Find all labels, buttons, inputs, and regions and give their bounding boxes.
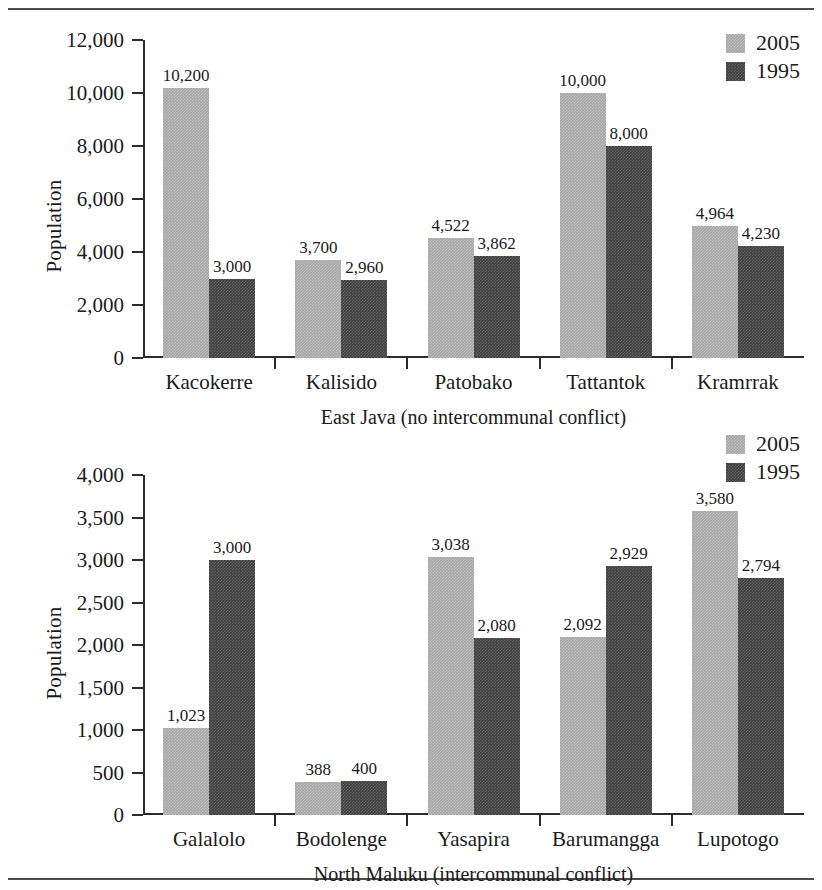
bar-2005[interactable]: 4,964 [692, 226, 738, 358]
y-tick-label: 3,000 [77, 550, 124, 571]
y-tick: 0 [132, 357, 143, 359]
bar-group: 2,0922,929 [540, 475, 672, 815]
y-tick-label: 2,000 [77, 295, 124, 316]
bar-value-label: 2,092 [564, 616, 602, 633]
y-tick-label: 1,000 [77, 720, 124, 741]
bar-1995[interactable]: 3,862 [474, 256, 520, 358]
bar-fill [163, 728, 209, 815]
bar-1995[interactable]: 400 [341, 781, 387, 815]
bar-fill [738, 578, 784, 815]
chart-panel-east-java: Population 2005 1995 02,0004,0006,0008,0… [0, 18, 822, 433]
bar-value-label: 2,960 [345, 259, 383, 276]
x-category-label: Patobako [407, 370, 539, 395]
bar-1995[interactable]: 3,000 [209, 279, 255, 359]
bar-fill [209, 560, 255, 815]
y-axis-title-top: Population [42, 179, 67, 272]
bar-1995[interactable]: 4,230 [738, 246, 784, 358]
y-axis-title-bottom: Population [42, 606, 67, 699]
bar-fill [560, 637, 606, 815]
x-tick [274, 815, 276, 826]
bar-fill [163, 88, 209, 358]
x-tick [406, 815, 408, 826]
bar-2005[interactable]: 3,580 [692, 511, 738, 815]
bar-value-label: 3,000 [213, 539, 251, 556]
plot-area-bottom: 05001,0001,5002,0002,5003,0003,5004,000 … [143, 475, 804, 815]
figure-page: Population 2005 1995 02,0004,0006,0008,0… [0, 0, 822, 890]
x-tick [671, 815, 673, 826]
y-tick: 1,000 [132, 729, 143, 731]
x-category-label: Lupotogo [672, 827, 804, 852]
bar-fill [606, 566, 652, 815]
bar-1995[interactable]: 8,000 [606, 146, 652, 358]
x-axis-title-bottom: North Maluku (intercommunal conflict) [143, 863, 804, 886]
y-tick-label: 4,000 [77, 465, 124, 486]
bar-1995[interactable]: 2,960 [341, 280, 387, 358]
bar-2005[interactable]: 388 [295, 782, 341, 815]
y-tick: 6,000 [132, 198, 143, 200]
y-tick-label: 3,500 [77, 507, 124, 528]
x-category-label: Bodolenge [275, 827, 407, 852]
y-tick: 10,000 [132, 92, 143, 94]
bar-fill [474, 256, 520, 358]
y-tick-label: 4,000 [77, 242, 124, 263]
bar-1995[interactable]: 2,929 [606, 566, 652, 815]
bar-fill [341, 781, 387, 815]
y-tick: 8,000 [132, 145, 143, 147]
bar-value-label: 10,000 [559, 72, 606, 89]
bar-group: 10,0008,000 [540, 40, 672, 358]
bar-group: 3,7002,960 [275, 40, 407, 358]
bar-fill [560, 93, 606, 358]
bar-2005[interactable]: 3,038 [428, 557, 474, 815]
x-category-label: Tattantok [540, 370, 672, 395]
x-tick [539, 815, 541, 826]
bar-value-label: 2,794 [742, 557, 780, 574]
bar-fill [428, 557, 474, 815]
bar-2005[interactable]: 2,092 [560, 637, 606, 815]
bar-value-label: 2,080 [477, 617, 515, 634]
bar-2005[interactable]: 10,000 [560, 93, 606, 358]
bar-fill [209, 279, 255, 359]
bar-2005[interactable]: 3,700 [295, 260, 341, 358]
bar-value-label: 2,929 [610, 545, 648, 562]
bar-2005[interactable]: 10,200 [163, 88, 209, 358]
y-tick-label: 0 [114, 805, 125, 826]
y-tick-label: 10,000 [66, 83, 124, 104]
y-tick: 3,500 [132, 517, 143, 519]
x-tick [539, 358, 541, 369]
y-tick-label: 1,500 [77, 677, 124, 698]
bar-group: 1,0233,000 [143, 475, 275, 815]
bar-value-label: 3,700 [299, 239, 337, 256]
bar-1995[interactable]: 3,000 [209, 560, 255, 815]
bar-2005[interactable]: 4,522 [428, 238, 474, 358]
legend-item-2005: 2005 [726, 433, 800, 455]
bar-group: 388400 [275, 475, 407, 815]
y-tick: 2,000 [132, 644, 143, 646]
x-category-label: Kacokerre [143, 370, 275, 395]
chart-panel-north-maluku: Population 2005 1995 05001,0001,5002,000… [0, 433, 822, 873]
x-category-label: Kramrrak [672, 370, 804, 395]
bar-group: 10,2003,000 [143, 40, 275, 358]
bar-value-label: 4,230 [742, 225, 780, 242]
bar-value-label: 388 [306, 761, 332, 778]
bar-fill [606, 146, 652, 358]
x-tick [671, 358, 673, 369]
bar-2005[interactable]: 1,023 [163, 728, 209, 815]
bar-value-label: 3,580 [696, 490, 734, 507]
bar-fill [692, 511, 738, 815]
x-axis-labels-top: KacokerreKalisidoPatobakoTattantokKramrr… [143, 370, 804, 395]
y-tick: 0 [132, 814, 143, 816]
bar-groups-top: 10,2003,0003,7002,9604,5223,86210,0008,0… [143, 40, 804, 358]
x-category-label: Yasapira [407, 827, 539, 852]
y-tick-label: 2,000 [77, 635, 124, 656]
x-category-label: Barumangga [540, 827, 672, 852]
bar-fill [295, 782, 341, 815]
bar-value-label: 3,862 [477, 235, 515, 252]
bar-fill [428, 238, 474, 358]
y-tick: 12,000 [132, 39, 143, 41]
bar-value-label: 8,000 [610, 125, 648, 142]
bar-group: 3,5802,794 [672, 475, 804, 815]
bar-1995[interactable]: 2,794 [738, 578, 784, 815]
bar-value-label: 10,200 [163, 67, 210, 84]
bar-1995[interactable]: 2,080 [474, 638, 520, 815]
y-tick: 4,000 [132, 474, 143, 476]
